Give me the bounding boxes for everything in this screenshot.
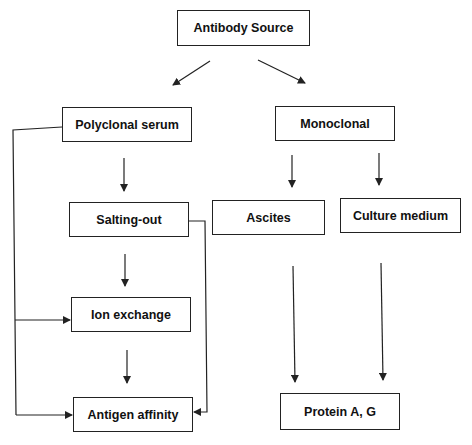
node-ion-exchange: Ion exchange	[71, 297, 191, 332]
arrow-root-to-monoclonal	[258, 60, 305, 83]
node-monoclonal: Monoclonal	[275, 106, 395, 141]
arrow-culture-to-protein	[381, 263, 383, 380]
node-label: Protein A, G	[304, 405, 376, 419]
node-label: Antibody Source	[193, 21, 293, 35]
node-salting-out: Salting-out	[69, 202, 189, 237]
node-culture-medium: Culture medium	[340, 198, 461, 233]
node-polyclonal-serum: Polyclonal serum	[62, 107, 192, 142]
node-label: Antigen affinity	[88, 408, 179, 422]
node-label: Culture medium	[353, 209, 448, 223]
node-antibody-source: Antibody Source	[177, 10, 310, 46]
node-antigen-affinity: Antigen affinity	[73, 397, 193, 432]
bracket-polyclonal-left	[13, 127, 62, 415]
node-label: Monoclonal	[300, 117, 369, 131]
node-label: Polyclonal serum	[75, 118, 179, 132]
node-label: Ascites	[246, 211, 290, 225]
arrow-root-to-polyclonal	[173, 61, 210, 85]
arrow-ascites-to-protein	[293, 266, 295, 382]
node-label: Ion exchange	[91, 308, 171, 322]
node-protein-ag: Protein A, G	[280, 393, 400, 430]
node-label: Salting-out	[96, 213, 161, 227]
node-ascites: Ascites	[212, 200, 325, 235]
